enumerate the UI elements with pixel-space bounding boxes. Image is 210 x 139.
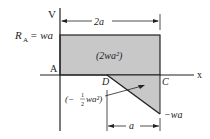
reaction-label: R bbox=[14, 29, 22, 41]
reaction-subscript: A bbox=[23, 36, 28, 44]
reaction-value: = wa bbox=[30, 29, 54, 41]
x-axis-label: x bbox=[197, 69, 202, 80]
lower-area-frac-den: 2 bbox=[81, 101, 84, 107]
dim-bottom-label: a bbox=[129, 120, 134, 131]
arrowhead-right-icon bbox=[153, 124, 159, 128]
lower-area-rest: wa²) bbox=[86, 94, 102, 104]
lower-area-frac-num: 1 bbox=[81, 92, 84, 98]
arrowhead-left-icon bbox=[61, 19, 67, 23]
shear-diagram: V x R A = wa A D C (2wa²) (− 1 2 wa²) −w… bbox=[0, 0, 210, 139]
point-c-label: C bbox=[162, 76, 169, 87]
arrowhead-right-icon bbox=[153, 19, 159, 23]
point-a-label: A bbox=[50, 63, 58, 74]
min-value-label: −wa bbox=[164, 109, 182, 120]
v-axis-label: V bbox=[48, 8, 56, 20]
dim-top-label: 2a bbox=[94, 16, 104, 27]
arrowhead-left-icon bbox=[108, 124, 114, 128]
upper-area-label: (2wa²) bbox=[96, 50, 123, 62]
lower-area-open: (− bbox=[65, 94, 74, 104]
point-d-label: D bbox=[101, 76, 110, 87]
